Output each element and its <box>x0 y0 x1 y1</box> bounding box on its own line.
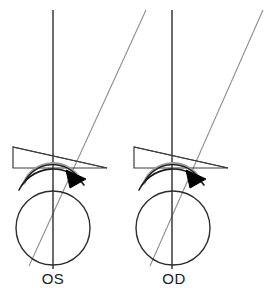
figure-background <box>0 0 266 295</box>
eye-torsion-diagram: OS OD <box>0 0 266 295</box>
figure-root: OS OD <box>0 0 266 295</box>
eye-label-od: OD <box>162 270 185 287</box>
eye-label-os: OS <box>42 270 64 287</box>
